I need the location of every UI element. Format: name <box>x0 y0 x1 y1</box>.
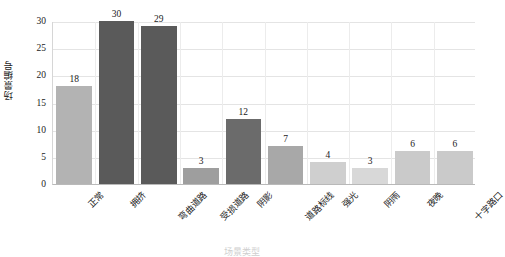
bar-value-label: 30 <box>95 9 137 19</box>
bar-slot: 6 <box>391 22 433 184</box>
bar[interactable] <box>395 151 431 184</box>
x-axis-title: 场景类型 <box>0 247 483 257</box>
bar[interactable] <box>99 21 135 184</box>
bar-slot: 7 <box>265 22 307 184</box>
bar[interactable] <box>352 168 388 184</box>
y-axis-tick-label: 0 <box>20 180 46 190</box>
bar-slot: 29 <box>138 22 180 184</box>
y-axis-tick-label: 20 <box>20 72 46 82</box>
x-axis-tick-label: 受损道路 <box>219 190 252 223</box>
bar[interactable] <box>310 162 346 184</box>
x-axis-tick-label: 阴雨 <box>383 190 403 210</box>
x-axis-tick-label: 正常 <box>86 190 106 210</box>
bar-value-label: 29 <box>138 14 180 24</box>
y-axis-tick-label: 30 <box>20 17 46 27</box>
y-axis-tick-label: 5 <box>20 153 46 163</box>
bar[interactable] <box>183 168 219 184</box>
bar-value-label: 12 <box>222 107 264 117</box>
x-axis-tick-label: 拥挤 <box>129 190 149 210</box>
bar[interactable] <box>56 86 92 184</box>
bar-slot: 18 <box>53 22 95 184</box>
bar-slot: 3 <box>180 22 222 184</box>
y-axis-tick-label: 25 <box>20 44 46 54</box>
bar-slot: 6 <box>434 22 476 184</box>
bar-value-label: 18 <box>53 74 95 84</box>
plot-area: 18302931274366 <box>52 22 475 185</box>
x-axis-tick-label: 强光 <box>340 190 360 210</box>
bar-slot: 12 <box>222 22 264 184</box>
bar-slot: 3 <box>349 22 391 184</box>
x-axis-tick-label: 道路标线 <box>303 190 336 223</box>
bar-slot: 30 <box>95 22 137 184</box>
bar-value-label: 7 <box>265 134 307 144</box>
bar-value-label: 6 <box>434 139 476 149</box>
x-axis-tick-label: 十字路口 <box>472 190 505 223</box>
bar-slot: 4 <box>307 22 349 184</box>
x-axis-tick-label: 弯曲道路 <box>176 190 209 223</box>
bar-value-label: 6 <box>391 139 433 149</box>
bar-value-label: 3 <box>180 156 222 166</box>
bar[interactable] <box>437 151 473 184</box>
bar-value-label: 4 <box>307 150 349 160</box>
y-axis-tick-label: 10 <box>20 126 46 136</box>
bar-value-label: 3 <box>349 156 391 166</box>
bar[interactable] <box>268 146 304 184</box>
y-axis-tick-label: 15 <box>20 99 46 109</box>
bar[interactable] <box>141 26 177 184</box>
bar[interactable] <box>226 119 262 184</box>
x-axis-tick-label: 阴影 <box>256 190 276 210</box>
x-axis-tick-label: 夜晚 <box>425 190 445 210</box>
